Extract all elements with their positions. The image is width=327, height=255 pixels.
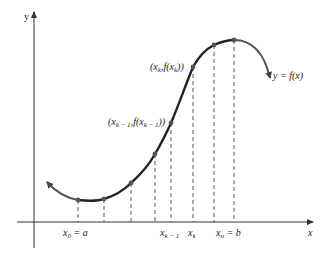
tick-label-xk: xk: [188, 228, 196, 240]
point-label-pk: (xk,f(xk)): [150, 62, 184, 74]
tick-label-xk-minus-1: xk − 1: [160, 228, 179, 240]
diagram-canvas: y x y = f(x) (xk,f(xk)) (xk − 1,f(xk − 1…: [0, 0, 327, 255]
curve-right-tail: [234, 40, 270, 78]
point-label-pk-minus-1: (xk − 1,f(xk − 1)): [108, 117, 165, 129]
tick-label-x0-equals-a: x0 = a: [63, 228, 88, 240]
tick-label-xn-equals-b: xn = b: [216, 228, 241, 240]
y-axis-label: y: [24, 12, 29, 22]
x-axis-label: x: [308, 228, 312, 238]
curve-left-tail: [47, 182, 78, 200]
curve-label: y = f(x): [273, 71, 303, 81]
